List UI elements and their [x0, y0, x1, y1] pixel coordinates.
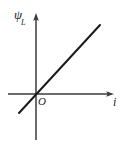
- x-axis-label: i: [113, 96, 116, 108]
- origin-label: O: [38, 96, 46, 107]
- y-axis-label: ψL: [14, 8, 27, 25]
- figure-container: ψL i O: [0, 0, 129, 147]
- characteristic-line: [19, 25, 100, 113]
- y-axis-label-subscript: L: [21, 18, 25, 27]
